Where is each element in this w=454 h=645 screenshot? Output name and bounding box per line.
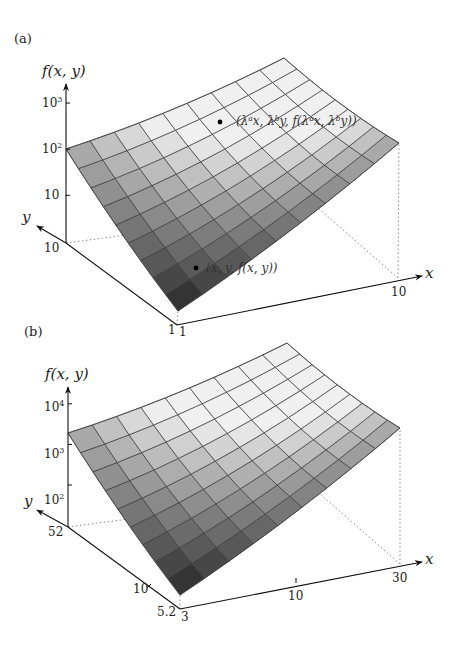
y-tick-a-10: 10 [44, 242, 59, 254]
panel-label-b: (b) [24, 325, 42, 338]
y-tick-a-1: 1 [168, 324, 176, 336]
panel-label-a: (a) [14, 32, 32, 45]
y-tick-b-10: 10 [133, 583, 148, 595]
x-tick-a-10: 10 [391, 286, 406, 298]
z-tick-a-10: 10 [44, 189, 59, 201]
y-axis-title-b: y [24, 494, 32, 509]
point-marker [194, 266, 199, 271]
y-axis-title-a: y [22, 210, 30, 225]
z-tick-b-100: 102 [44, 493, 64, 506]
annotation-point: (x, y, f(x, y)) [206, 262, 278, 274]
x-tick-a-1: 1 [179, 326, 187, 338]
z-tick-a-1000: 103 [42, 96, 62, 109]
scaled-point-marker [218, 120, 223, 125]
z-tick-b-10000: 104 [44, 400, 64, 413]
z-tick-a-100: 102 [42, 142, 62, 155]
annotation-scaled-point: (λᵃx, λᵇy, f(λᵃx, λᵇy)) [236, 115, 357, 127]
z-tick-b-1000: 103 [44, 447, 64, 460]
y-tick-b-52: 52 [48, 526, 63, 538]
y-tick-b-5.2: 5.2 [157, 606, 176, 618]
figure-canvas [0, 0, 454, 645]
x-tick-b-3: 3 [181, 611, 189, 623]
x-tick-b-10: 10 [288, 590, 303, 602]
x-axis-title-b: x [425, 552, 433, 567]
z-axis-title-a: f(x, y) [42, 64, 86, 79]
x-axis-title-a: x [425, 266, 433, 281]
surface-plot-a [37, 58, 422, 325]
z-axis-title-b: f(x, y) [45, 367, 89, 382]
x-tick-b-30: 30 [392, 572, 407, 584]
surface-plot-b [37, 343, 422, 609]
